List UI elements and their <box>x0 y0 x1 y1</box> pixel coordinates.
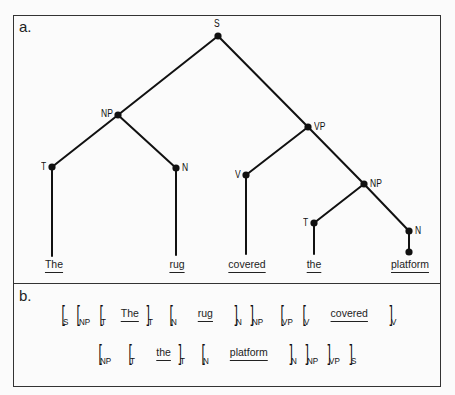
syntax-tree <box>0 0 455 395</box>
bracketed-word-covered: covered <box>331 307 368 319</box>
panel-b-label: b. <box>19 287 32 304</box>
node-label-n2: N <box>415 225 421 236</box>
bracket-subscript: S <box>351 355 356 366</box>
bracket-subscript: T <box>130 355 135 366</box>
node-label-t: T <box>41 161 46 172</box>
bracket-subscript: NP <box>307 355 318 366</box>
bracketed-word-the: The <box>121 307 139 319</box>
bracketing-line-1: [S [NP [T The ]T [N rug ]N ]NP [VP [V co… <box>60 303 397 325</box>
node-label-v: V <box>235 169 241 180</box>
bracketing-line-2: [NP [T the ]T [N platform ]N ]NP ]VP ]S <box>97 342 357 364</box>
bracket-subscript: V <box>391 316 396 327</box>
node-t2-dot <box>310 219 317 226</box>
leaf-covered: covered <box>228 258 265 270</box>
node-n-dot <box>172 164 179 171</box>
node-t-dot <box>48 163 55 170</box>
bracket-subscript: NP <box>79 316 90 327</box>
bracket-subscript: VP <box>329 355 340 366</box>
leaf-rug: rug <box>169 258 184 270</box>
node-n2-dot <box>405 227 412 234</box>
bracket-subscript: T <box>101 316 106 327</box>
bracket-subscript: V <box>304 316 309 327</box>
leaf-the-2: the <box>307 258 322 270</box>
node-label-s: S <box>214 18 220 29</box>
leaf-platform: platform <box>391 258 429 270</box>
node-np2-dot <box>360 180 367 187</box>
bracket-subscript: N <box>291 355 297 366</box>
bracket-subscript: S <box>63 316 68 327</box>
bracket-subscript: NP <box>100 355 111 366</box>
node-label-np2: NP <box>370 178 382 189</box>
bracket-subscript: N <box>236 316 242 327</box>
bracket-subscript: T <box>148 316 153 327</box>
node-label-n: N <box>182 162 188 173</box>
bracket-subscript: VP <box>282 316 293 327</box>
bracketed-word-the: the <box>156 346 171 358</box>
node-vp-dot <box>304 123 311 130</box>
bracket-subscript: T <box>180 355 185 366</box>
leaf-the: The <box>45 258 63 270</box>
node-v-dot <box>242 171 249 178</box>
bracket-subscript: NP <box>252 316 263 327</box>
bracket-subscript: N <box>171 316 177 327</box>
node-s-dot <box>214 32 221 39</box>
bracketed-word-platform: platform <box>230 346 268 358</box>
node-np-dot <box>114 111 121 118</box>
node-label-t2: T <box>303 217 308 228</box>
bracketed-word-rug: rug <box>198 307 213 319</box>
node-label-np: NP <box>101 108 113 119</box>
leaf-platform-dot <box>405 248 412 255</box>
node-label-vp: VP <box>314 121 325 132</box>
bracket-subscript: N <box>203 355 209 366</box>
